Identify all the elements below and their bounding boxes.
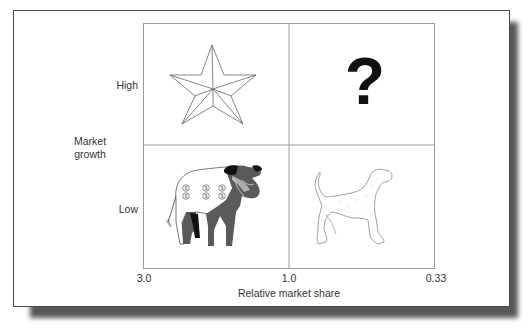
x-tick-3-0: 3.0: [129, 272, 159, 285]
y-tick-low: Low: [100, 203, 138, 216]
y-tick-high: High: [100, 79, 138, 92]
x-tick-1-0: 1.0: [274, 272, 304, 285]
svg-text:$: $: [220, 185, 223, 191]
question-mark-icon: ?: [343, 46, 387, 116]
y-axis-title-line1: Market: [60, 135, 120, 148]
x-axis-title: Relative market share: [209, 287, 369, 300]
x-tick-0-33: 0.33: [421, 272, 451, 285]
cash-cow-icon: $$ $$ $$: [164, 162, 268, 254]
svg-text:$: $: [220, 193, 223, 199]
svg-text:$: $: [184, 193, 187, 199]
svg-text:$: $: [204, 193, 207, 199]
svg-text:$: $: [204, 185, 207, 191]
y-axis-title-line2: growth: [60, 148, 120, 161]
svg-text:$: $: [184, 185, 187, 191]
dog-icon: [312, 164, 408, 254]
star-icon: [165, 40, 261, 130]
